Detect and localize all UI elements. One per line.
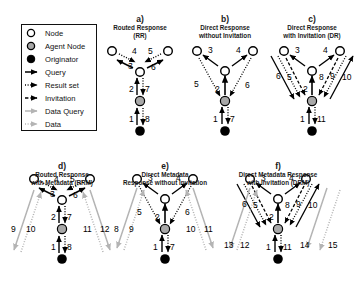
svg-text:5: 5: [137, 207, 142, 217]
panel-letter-b: b): [183, 15, 267, 24]
svg-text:5: 5: [253, 200, 258, 210]
svg-text:13: 13: [224, 240, 234, 250]
svg-text:3: 3: [208, 45, 213, 55]
svg-text:1: 1: [266, 242, 271, 252]
panel-letter-e: e): [113, 162, 217, 171]
svg-text:1: 1: [213, 114, 218, 124]
panel-caption-b: Direct Response without Invitation: [199, 24, 251, 38]
svg-text:8: 8: [145, 114, 150, 124]
svg-text:6: 6: [73, 190, 78, 200]
svg-text:6: 6: [242, 199, 247, 209]
svg-text:4: 4: [236, 45, 241, 55]
svg-text:1: 1: [300, 114, 305, 124]
legend-label-agent-node: Agent Node: [45, 42, 85, 51]
svg-text:7: 7: [67, 212, 72, 222]
panel-title-a: a)Routed Response (RR): [100, 8, 180, 39]
svg-text:9: 9: [330, 71, 335, 81]
svg-text:4: 4: [323, 45, 328, 55]
panel-caption-e: Direct Metadata Response without Invitat…: [123, 171, 207, 185]
svg-text:6: 6: [276, 71, 281, 81]
svg-text:7: 7: [170, 242, 175, 252]
svg-text:12: 12: [240, 240, 250, 250]
legend-label-data: Data: [45, 120, 61, 129]
svg-text:11: 11: [283, 242, 292, 252]
svg-text:11: 11: [317, 114, 326, 124]
svg-text:14: 14: [300, 240, 310, 250]
svg-text:8: 8: [319, 72, 324, 82]
legend-label-data-query: Data Query: [45, 107, 84, 116]
svg-text:3: 3: [50, 189, 55, 199]
svg-text:1: 1: [51, 242, 56, 252]
legend-label-invitation: Invitation: [45, 94, 75, 103]
legend-label-node: Node: [45, 29, 63, 38]
svg-text:5: 5: [287, 72, 292, 82]
svg-text:10: 10: [342, 72, 352, 82]
panel-title-b: b)Direct Response without Invitation: [183, 8, 267, 39]
panel-caption-c: Direct Response with Invitation (DR): [283, 24, 340, 38]
svg-text:9: 9: [129, 224, 134, 234]
svg-text:9: 9: [296, 199, 301, 209]
svg-text:12: 12: [100, 224, 110, 234]
svg-text:8: 8: [285, 200, 290, 210]
svg-text:2: 2: [303, 84, 308, 94]
panel-caption-f: Direct Metadata Response with Invitation…: [239, 171, 318, 185]
panel-letter-f: f): [222, 162, 334, 171]
svg-text:15: 15: [328, 240, 338, 250]
svg-text:5: 5: [194, 79, 199, 89]
svg-text:4: 4: [132, 46, 137, 56]
svg-text:2: 2: [155, 212, 160, 222]
svg-text:2: 2: [215, 84, 220, 94]
legend-label-query: Query: [45, 68, 66, 77]
svg-text:10: 10: [308, 200, 318, 210]
svg-text:11: 11: [83, 224, 92, 234]
panel-title-f: f)Direct Metadata Response with Invitati…: [222, 155, 334, 186]
panel-letter-a: a): [100, 15, 180, 24]
svg-text:3: 3: [295, 45, 300, 55]
svg-text:6: 6: [151, 62, 156, 72]
svg-text:2: 2: [129, 84, 134, 94]
panel-title-e: e)Direct Metadata Response without Invit…: [113, 155, 217, 186]
panel-letter-c: c): [267, 15, 357, 24]
legend-label-originator: Originator: [45, 55, 78, 64]
svg-text:2: 2: [51, 212, 56, 222]
panel-title-d: d)Routed Response with Metadata (RRM): [14, 155, 110, 186]
svg-text:8: 8: [114, 224, 119, 234]
panel-caption-d: Routed Response with Metadata (RRM): [31, 171, 93, 185]
svg-text:6: 6: [245, 80, 250, 90]
svg-text:7: 7: [230, 114, 235, 124]
svg-text:6: 6: [185, 207, 190, 217]
legend-label-result-set: Result set: [45, 81, 79, 90]
svg-text:10: 10: [26, 224, 36, 234]
svg-text:10: 10: [186, 224, 196, 234]
svg-text:7: 7: [145, 84, 150, 94]
panel-letter-d: d): [14, 162, 110, 171]
svg-text:2: 2: [269, 212, 274, 222]
svg-text:11: 11: [204, 224, 213, 234]
svg-text:8: 8: [67, 242, 72, 252]
svg-text:3: 3: [128, 61, 133, 71]
panel-title-c: c)Direct Response with Invitation (DR): [267, 8, 357, 39]
svg-text:1: 1: [153, 242, 158, 252]
svg-text:9: 9: [11, 224, 16, 234]
svg-text:5: 5: [148, 46, 153, 56]
figure-canvas: 3 4 5 6 2 7 1 8 3 4 5 2 6: [0, 0, 361, 297]
panel-caption-a: Routed Response (RR): [113, 24, 167, 38]
svg-text:1: 1: [129, 114, 134, 124]
